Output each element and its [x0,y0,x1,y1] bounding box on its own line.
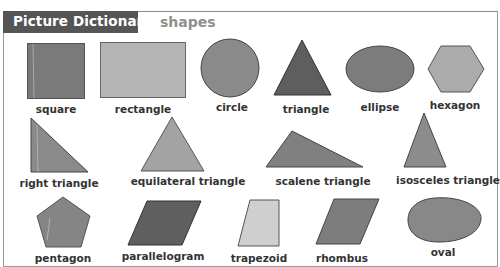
right-triangle-icon [30,117,90,174]
label-rhombus: rhombus [316,252,368,264]
page-subtitle: shapes [160,14,216,30]
parallelogram-icon [127,200,203,246]
label-oval: oval [431,246,456,258]
isosceles-triangle-icon [403,112,447,168]
circle-icon [200,38,262,100]
triangle-icon [273,39,333,96]
square-icon [27,43,87,99]
ellipse-icon [345,45,417,95]
label-trapezoid: trapezoid [231,252,287,264]
label-square: square [36,103,77,115]
label-circle: circle [216,101,248,113]
oval-icon [407,197,483,243]
equilateral-triangle-icon [140,116,206,172]
trapezoid-icon [237,199,281,247]
label-pentagon: pentagon [35,252,91,264]
rectangle-icon [100,42,188,98]
label-rectangle: rectangle [115,103,171,115]
scalene-triangle-icon [265,130,365,168]
label-triangle: triangle [283,103,330,115]
page-title: Picture Dictionary [13,13,152,29]
pentagon-icon [36,196,92,248]
label-isosceles-triangle: isosceles triangle [396,174,500,186]
label-scalene-triangle: scalene triangle [275,175,370,187]
label-equilateral-triangle: equilateral triangle [131,175,246,187]
label-hexagon: hexagon [430,99,481,111]
label-ellipse: ellipse [361,101,400,113]
label-right-triangle: right triangle [19,177,98,189]
rhombus-icon [315,198,381,246]
hexagon-icon [427,45,485,95]
label-parallelogram: parallelogram [122,250,205,262]
